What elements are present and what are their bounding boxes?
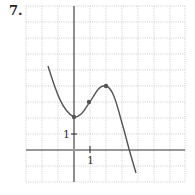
- point-inflection: [87, 100, 91, 104]
- x-tick-label: 1: [87, 154, 94, 167]
- point-local-max: [104, 84, 108, 88]
- grid: [26, 6, 185, 182]
- y-tick-label: 1: [63, 128, 70, 141]
- point-local-min: [72, 115, 76, 119]
- point-origin: [72, 148, 75, 151]
- function-graph: 1 1: [0, 0, 195, 195]
- axes: [26, 6, 185, 182]
